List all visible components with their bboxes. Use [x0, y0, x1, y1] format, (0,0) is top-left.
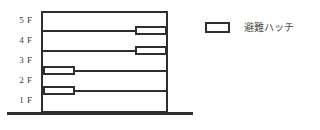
evacuation-hatch-2f-1f [43, 86, 75, 95]
floor-label-1f: 1 F [12, 95, 40, 105]
evacuation-hatch-5f-4f [135, 26, 167, 35]
legend-hatch-swatch-icon [205, 22, 230, 33]
ground-line [7, 112, 193, 115]
floor-label-5f: 5 F [12, 15, 40, 25]
floor-label-3f: 3 F [12, 55, 40, 65]
evacuation-hatch-3f-2f [43, 66, 75, 75]
legend: 避難ハッチ [205, 22, 294, 33]
evacuation-hatch-4f-3f [135, 46, 167, 55]
diagram-canvas: 5 F 4 F 3 F 2 F 1 F 避難ハッチ [0, 0, 320, 130]
floor-label-2f: 2 F [12, 75, 40, 85]
legend-label: 避難ハッチ [244, 22, 294, 33]
floor-label-4f: 4 F [12, 35, 40, 45]
